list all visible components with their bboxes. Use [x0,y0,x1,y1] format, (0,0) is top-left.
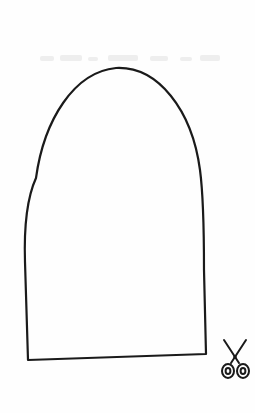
scissors-icon [218,336,254,382]
printable-page [0,0,255,413]
arch-cutout-outline [0,0,255,413]
